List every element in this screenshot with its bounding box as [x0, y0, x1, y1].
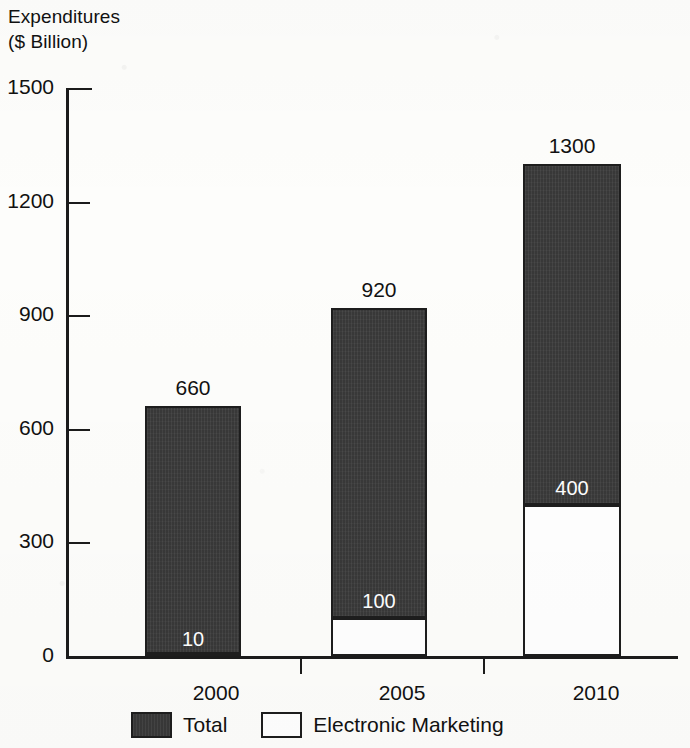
legend-label-total: Total: [183, 713, 227, 737]
y-tick-label-600: 600: [19, 416, 54, 440]
bar-inner-label-2000: 10: [147, 628, 239, 651]
y-tick-300: 300: [66, 542, 90, 544]
y-tick-label-900: 900: [19, 302, 54, 326]
bar-inner-label-2005: 100: [333, 590, 425, 613]
legend-item-total: Total: [131, 712, 227, 738]
bar-group-2000: 660 10: [145, 406, 241, 656]
x-tick-label-2000: 2000: [176, 680, 256, 705]
y-axis-title: Expenditures ($ Billion): [8, 4, 120, 54]
bar-inner-label-2010: 400: [525, 477, 619, 500]
y-axis-line: [66, 88, 69, 658]
bar-total-label-2000: 660: [127, 376, 259, 400]
x-separator-tick-1: [300, 656, 302, 674]
bar-segment-total-2005: 100: [331, 308, 427, 618]
y-tick-900: 900: [66, 315, 90, 317]
legend-swatch-electronic-marketing-icon: [261, 712, 302, 738]
bar-segment-total-2010: 400: [523, 164, 621, 505]
legend-swatch-total-icon: [131, 712, 172, 738]
legend-item-electronic-marketing: Electronic Marketing: [261, 712, 503, 738]
y-tick-label-1200: 1200: [7, 189, 54, 213]
bar-segment-electronic-marketing-2010: [523, 505, 621, 656]
plot-area: 1500 1200 900 600 300 0 2000 2005 2010 6…: [66, 88, 678, 656]
y-tick-label-1500: 1500: [7, 75, 54, 99]
chart-legend: Total Electronic Marketing: [131, 712, 504, 738]
x-tick-label-2005: 2005: [362, 680, 442, 705]
y-tick-1500: 1500: [66, 88, 90, 90]
bar-group-2005: 920 100: [331, 308, 427, 656]
bar-segment-electronic-marketing-2005: [331, 618, 427, 656]
bar-segment-total-2000: 10: [145, 406, 241, 656]
y-tick-label-0: 0: [42, 643, 54, 667]
y-tick-1200: 1200: [66, 202, 90, 204]
legend-label-electronic-marketing: Electronic Marketing: [313, 713, 503, 737]
y-tick-600: 600: [66, 429, 90, 431]
bar-total-label-2010: 1300: [505, 134, 639, 158]
y-tick-label-300: 300: [19, 529, 54, 553]
x-axis-line: [66, 656, 678, 659]
bar-group-2010: 1300 400: [523, 164, 621, 656]
x-tick-label-2010: 2010: [556, 680, 636, 705]
x-separator-tick-2: [483, 656, 485, 674]
bar-total-label-2005: 920: [313, 278, 445, 302]
expenditures-stacked-bar-chart: Expenditures ($ Billion) 1500 1200 900 6…: [0, 0, 690, 748]
